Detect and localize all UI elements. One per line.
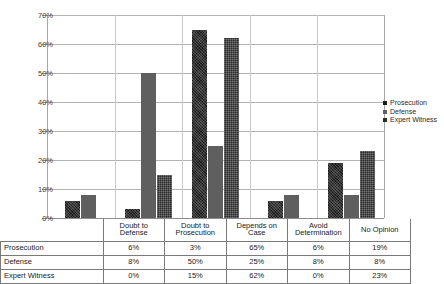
table-cell: 19% <box>349 242 411 256</box>
bar-group <box>47 15 115 218</box>
legend-item-prosecution: Prosecution <box>383 99 437 108</box>
table-header-row: Doubt to DefenseDoubt to ProsecutionDepe… <box>1 219 411 242</box>
legend-swatch-icon <box>383 101 387 105</box>
legend-label: Expert Witness <box>390 116 437 125</box>
bar <box>81 195 96 218</box>
table-column-header: Depends on Case <box>226 219 288 242</box>
bar <box>157 175 172 219</box>
bar <box>284 195 299 218</box>
bar <box>360 151 375 218</box>
bar-group <box>250 15 318 218</box>
legend-swatch-icon <box>383 118 387 122</box>
bar-group <box>115 15 183 218</box>
bar-group <box>317 15 385 218</box>
chart-legend: Prosecution Defense Expert Witness <box>383 99 437 125</box>
table-cell: 3% <box>165 242 227 256</box>
table-cell: 0% <box>103 270 165 284</box>
data-table: Doubt to DefenseDoubt to ProsecutionDepe… <box>0 219 411 284</box>
table-column-header: Avoid Determination <box>288 219 350 242</box>
table-cell: 8% <box>288 256 350 270</box>
bar <box>268 201 283 218</box>
bar <box>141 73 156 218</box>
table-cell: 23% <box>349 270 411 284</box>
table-row: Prosecution6%3%65%6%19% <box>1 242 411 256</box>
table-column-header: Doubt to Defense <box>103 219 165 242</box>
table-cell: 50% <box>165 256 227 270</box>
table-column-header: Doubt to Prosecution <box>165 219 227 242</box>
table-row-header: Defense <box>1 256 104 270</box>
bar <box>125 209 140 218</box>
bar-group <box>182 15 250 218</box>
bar <box>208 146 223 219</box>
table-cell: 25% <box>226 256 288 270</box>
bar <box>192 30 207 219</box>
bar-groups <box>47 15 385 218</box>
legend-swatch-icon <box>383 110 387 114</box>
table-cell: 6% <box>288 242 350 256</box>
legend-item-expert-witness: Expert Witness <box>383 116 437 125</box>
bar-chart: 70%60%50%40%30%20%10%0% Prosecution Defe… <box>0 0 444 222</box>
bar <box>224 38 239 218</box>
bar <box>344 195 359 218</box>
table-cell: 62% <box>226 270 288 284</box>
table-corner-cell <box>1 219 104 242</box>
table-cell: 0% <box>288 270 350 284</box>
table-column-header: No Opinion <box>349 219 411 242</box>
table-cell: 8% <box>103 256 165 270</box>
table-cell: 6% <box>103 242 165 256</box>
legend-label: Prosecution <box>390 99 427 108</box>
table-row: Defense8%50%25%8%8% <box>1 256 411 270</box>
table-row-header: Prosecution <box>1 242 104 256</box>
bar <box>65 201 80 218</box>
legend-item-defense: Defense <box>383 108 437 117</box>
table-row-header: Expert Witness <box>1 270 104 284</box>
table-row: Expert Witness0%15%62%0%23% <box>1 270 411 284</box>
table-cell: 15% <box>165 270 227 284</box>
table-cell: 65% <box>226 242 288 256</box>
table-cell: 8% <box>349 256 411 270</box>
bar <box>328 163 343 218</box>
legend-label: Defense <box>390 108 416 117</box>
